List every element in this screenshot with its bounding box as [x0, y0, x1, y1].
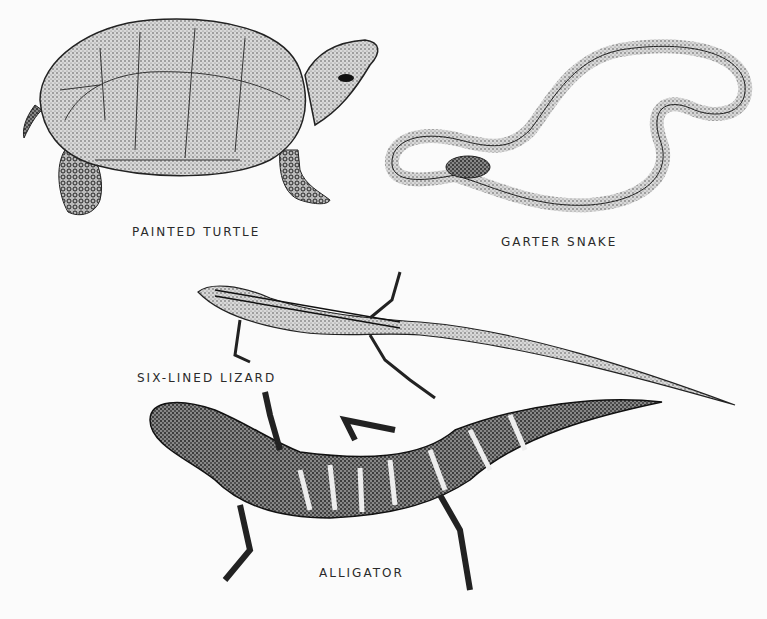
painted-turtle-drawing: [23, 19, 377, 215]
garter-snake-drawing: [392, 46, 745, 205]
alligator-drawing: [150, 392, 662, 590]
illustration-plate: [0, 0, 767, 619]
six-lined-lizard-drawing: [198, 272, 735, 405]
painted-turtle-label: PAINTED TURTLE: [132, 225, 260, 239]
six-lined-lizard-label: SIX-LINED LIZARD: [137, 371, 276, 385]
alligator-label: ALLIGATOR: [319, 566, 404, 580]
garter-snake-label: GARTER SNAKE: [501, 235, 617, 249]
